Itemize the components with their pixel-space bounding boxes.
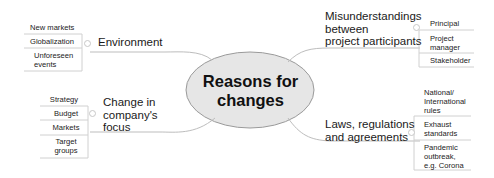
company-focus-child-budget[interactable]: Budget (44, 110, 88, 119)
company-focus-child-target-groups[interactable]: Target groups (44, 138, 88, 156)
environment-child-unforeseen-events[interactable]: Unforeseen events (34, 52, 73, 70)
company-focus-collapse-handle[interactable] (89, 110, 96, 117)
laws-child-pandemic-outbreak[interactable]: Pandemic outbreak, e.g. Corona (424, 144, 464, 170)
misunderstandings-child-principal[interactable]: Principal (430, 20, 459, 29)
laws-child-national-international-rules[interactable]: National/ International rules (424, 89, 466, 115)
center-node[interactable]: Reasons for changes (193, 57, 308, 125)
misunderstandings-child-project-manager[interactable]: Project manager (430, 35, 460, 53)
misunderstandings-child-stakeholder[interactable]: Stakeholder (430, 57, 471, 66)
branch-laws[interactable]: Laws, regulations and agreements (325, 118, 415, 143)
laws-child-exhaust-standards[interactable]: Exhaust standards (424, 121, 457, 139)
environment-child-new-markets[interactable]: New markets (30, 24, 74, 33)
company-focus-child-strategy[interactable]: Strategy (44, 96, 84, 105)
environment-collapse-handle[interactable] (84, 40, 91, 47)
company-focus-child-markets[interactable]: Markets (44, 124, 88, 133)
branch-company-focus[interactable]: Change in company's focus (103, 96, 158, 134)
branch-environment[interactable]: Environment (98, 36, 163, 49)
environment-child-globalization[interactable]: Globalization (30, 38, 74, 47)
branch-misunderstandings[interactable]: Misunderstandings between project partic… (325, 10, 422, 48)
